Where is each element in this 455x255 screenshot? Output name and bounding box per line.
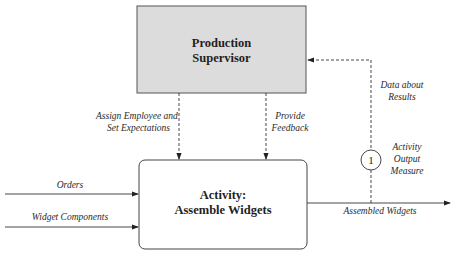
supervisor-title-line1: Production	[137, 36, 306, 51]
feedback-label-line1: Provide	[270, 110, 310, 122]
feedback-label: Provide Feedback	[270, 110, 310, 134]
assign-label: Assign Employee and Set Expectations	[96, 110, 176, 134]
output-label: Assembled Widgets	[335, 205, 425, 217]
measure-label-line1: Activity	[382, 141, 432, 153]
results-label: Data about Results	[372, 79, 432, 103]
measure-label-line2: Output	[382, 153, 432, 165]
assign-label-line2: Set Expectations	[96, 122, 176, 134]
feedback-label-line2: Feedback	[270, 122, 310, 134]
feedback-loop-line	[308, 60, 371, 203]
activity-title-line2: Assemble Widgets	[139, 203, 307, 218]
supervisor-title-line2: Supervisor	[137, 51, 306, 66]
results-label-line1: Data about	[372, 79, 432, 91]
components-label: Widget Components	[20, 211, 120, 223]
orders-label: Orders	[40, 179, 100, 191]
supervisor-title: Production Supervisor	[137, 36, 306, 66]
assign-label-line1: Assign Employee and	[96, 110, 176, 122]
measure-label-line3: Measure	[382, 165, 432, 177]
measure-label: Activity Output Measure	[382, 141, 432, 177]
results-label-line2: Results	[372, 91, 432, 103]
activity-title-line1: Activity:	[139, 188, 307, 203]
measure-number: 1	[361, 150, 381, 170]
activity-title: Activity: Assemble Widgets	[139, 188, 307, 218]
